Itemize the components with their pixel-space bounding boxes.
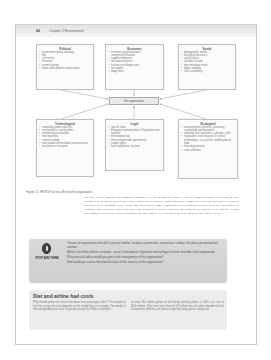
- social-box: Social demographic trends lifestyle pref…: [178, 44, 236, 90]
- list-item: local regulations, by-laws: [108, 145, 161, 148]
- list-item: wage rates: [108, 70, 161, 73]
- stop-and-think-label: STOP AND THINK: [32, 256, 62, 260]
- stop-sign-icon: [42, 243, 51, 254]
- organization-node: the organization: [109, 97, 159, 105]
- case-title: Diet and airline fuel costs: [33, 293, 94, 299]
- list-item: trade union policies and activities: [39, 67, 91, 70]
- case-column-left: Why should airlines be concerned about t…: [33, 301, 126, 312]
- case-column-right: an extra 350 million gallons of fuel bei…: [131, 301, 224, 312]
- list-item: skills availability: [181, 70, 233, 73]
- list-item: noise pollution: [181, 149, 235, 152]
- technological-box: Technological computing power and cost n…: [36, 119, 94, 177]
- stop-item: Make a list of the political, economic, …: [67, 251, 222, 255]
- page-header: 44 Chapter 2 Environment: [16, 24, 256, 37]
- body-paragraph: The best way to approach environmental s…: [84, 195, 239, 215]
- stop-item: Choose an organization with which you ar…: [67, 242, 222, 249]
- stop-and-think-box: STOP AND THINK Choose an organization wi…: [29, 239, 227, 283]
- list-item: innovation in transport: [39, 145, 91, 148]
- list-item: regulations restricting use of certain t…: [181, 135, 235, 145]
- page-number: 44: [36, 29, 40, 33]
- legal-box: Legal specific laws European harmonizati…: [105, 119, 164, 171]
- ecological-box: Ecological environmental concerns, prote…: [178, 119, 238, 179]
- stop-item: How would you assess the practical value…: [67, 261, 222, 265]
- economic-box: Economic economic growth patterns compet…: [105, 44, 164, 90]
- case-study-box: Diet and airline fuel costs Why should a…: [29, 290, 227, 330]
- book-page: 44 Chapter 2 Environment Political gover…: [15, 24, 257, 345]
- political-box: Political government policy, ideology wa…: [36, 44, 94, 90]
- chapter-title: Chapter 2 Environment: [49, 29, 84, 33]
- stop-item: What practical advice would you give to …: [67, 256, 222, 260]
- figure-caption: Figure 2.1: PESTLE factors affecting the…: [26, 190, 92, 194]
